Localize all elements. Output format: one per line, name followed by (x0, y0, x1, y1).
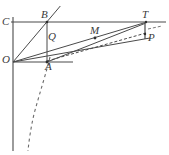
label-point-a: A (45, 61, 52, 72)
label-point-m: M (90, 25, 99, 36)
geometry-figure: C B T Q M P O A (0, 0, 169, 155)
dashed-stub-right-of-p (148, 26, 162, 29)
label-point-p: P (148, 32, 155, 43)
label-point-b: B (41, 9, 48, 20)
label-point-q: Q (48, 31, 56, 42)
label-point-c: C (2, 16, 9, 27)
label-point-o: O (2, 54, 10, 65)
point-marker-b (46, 21, 49, 24)
top-margin-strip (0, 0, 169, 6)
label-point-t: T (142, 9, 148, 20)
point-marker-p (144, 33, 146, 35)
point-marker-m (94, 37, 97, 40)
point-marker-t (145, 21, 147, 23)
geometry-canvas (0, 0, 169, 155)
